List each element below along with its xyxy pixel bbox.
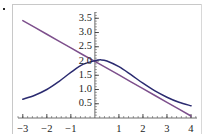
y-tick-label: 3.0: [68, 27, 92, 38]
x-tick-label: 2: [133, 124, 153, 134]
y-tick-label: 0.5: [68, 98, 92, 109]
axes: [18, 12, 197, 118]
y-tick-label: 1.5: [68, 70, 92, 81]
data-series: [23, 21, 191, 116]
x-tick-label: −2: [37, 124, 57, 134]
y-tick-label: 2.5: [68, 41, 92, 52]
series-purple-line: [23, 21, 191, 116]
y-tick-label: 2.0: [68, 56, 92, 67]
y-tick-label: 3.5: [68, 13, 92, 24]
x-tick-label: 4: [181, 124, 201, 134]
x-tick-label: 1: [109, 124, 129, 134]
y-tick-label: 1.0: [68, 84, 92, 95]
x-tick-label: −3: [13, 124, 33, 134]
series-blue-curve: [23, 60, 191, 106]
x-tick-label: 3: [157, 124, 177, 134]
chart-figure: 0.51.01.52.02.53.03.5 −3−2−11234: [0, 0, 202, 134]
x-tick-label: −1: [61, 124, 81, 134]
plot-canvas: [0, 0, 202, 134]
